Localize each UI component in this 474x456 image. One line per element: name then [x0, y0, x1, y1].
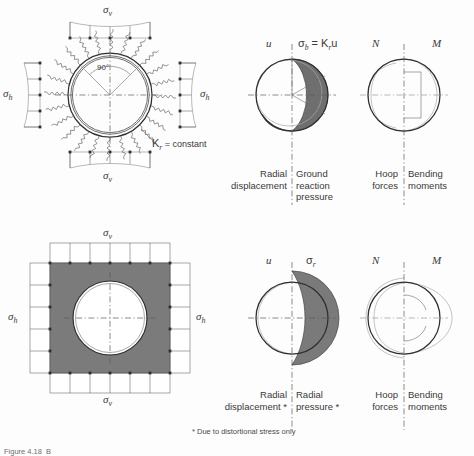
radial-displacement-caption-top: Radialdisplacement — [215, 168, 287, 191]
sigma-v-bottom-label-2: σv — [103, 394, 112, 410]
sigma-v-bottom-label: σv — [103, 170, 112, 186]
u-symbol-bottom: u — [266, 255, 272, 267]
sigma-h-right-label: σh — [200, 88, 209, 104]
sigma-v-top-label-2: σv — [103, 227, 112, 243]
sigma-r-symbol-bottom: σr — [306, 255, 316, 270]
spring-constant-annotation: Kr = constant — [152, 138, 207, 153]
hoop-forces-caption-top: Hoopforces — [336, 168, 398, 191]
sigma-v-top-label: σv — [103, 4, 112, 20]
sigma-h-left-label: σh — [3, 88, 12, 104]
sigma-h-right-label-2: σh — [196, 311, 205, 327]
bending-moments-caption-top: Bendingmoments — [408, 168, 474, 191]
figure-caption: Figure 4.18 B — [4, 447, 51, 456]
continuum-ground-model — [30, 243, 190, 393]
hoop-forces-caption-bottom: Hoopforces — [336, 389, 398, 412]
sigma-b-equation-top: σb = Kru — [298, 38, 337, 53]
bending-moments-caption-bottom: Bendingmoments — [408, 389, 474, 412]
angle-annotation-label: 90° — [97, 62, 109, 74]
footnote-distortional-stress: * Due to distortional stress only — [192, 427, 295, 436]
M-symbol-top: M — [432, 38, 441, 50]
M-symbol-bottom: M — [432, 255, 441, 267]
radial-displacement-caption-bottom: Radialdisplacement * — [205, 389, 287, 412]
u-symbol-top: u — [266, 38, 272, 50]
N-symbol-top: N — [372, 38, 379, 50]
N-symbol-bottom: N — [372, 255, 379, 267]
sigma-h-left-label-2: σh — [8, 311, 17, 327]
